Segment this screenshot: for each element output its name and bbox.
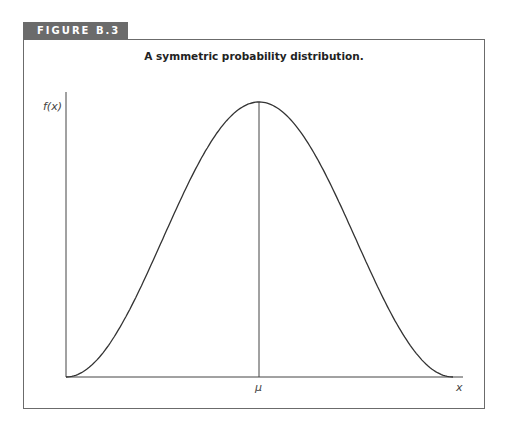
mu-tick-label: μ bbox=[254, 381, 262, 394]
y-axis-label: f(x) bbox=[43, 100, 62, 113]
x-axis-label: x bbox=[455, 381, 463, 394]
chart-plot: f(x) μ x bbox=[0, 0, 508, 427]
